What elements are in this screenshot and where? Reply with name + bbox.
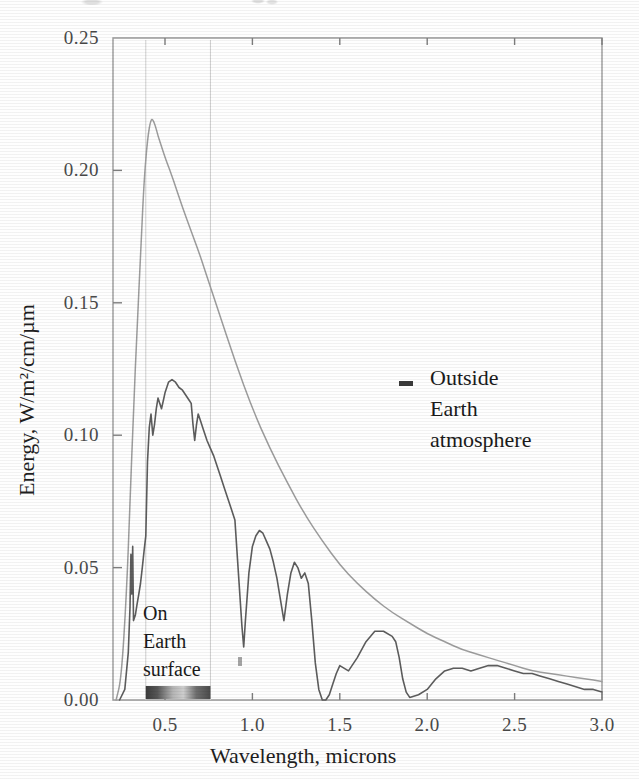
y-axis-tick-labels: 0.000.050.100.150.200.25 (64, 27, 99, 710)
annot-outside-line-3: atmosphere (430, 427, 531, 452)
visible-spectrum-bar (146, 686, 211, 699)
curve-outside-earth-atmosphere (116, 120, 602, 700)
y-tick-label: 0.05 (64, 557, 99, 578)
x-axis-tick-labels: 0.51.01.52.02.53.0 (152, 714, 614, 735)
y-tick-label: 0.00 (64, 689, 99, 710)
plot-frame (113, 38, 602, 700)
annotation-on-earth-surface: On Earth surface (143, 602, 201, 680)
solar-spectrum-chart: 0.51.01.52.02.53.0 0.000.050.100.150.200… (0, 0, 639, 779)
visible-band-gridlines (146, 40, 211, 700)
y-axis-title: Energy, W/m²/cm/µm (14, 304, 39, 496)
x-tick-label: 1.0 (240, 714, 265, 735)
annot-outside-line-2: Earth (430, 396, 478, 421)
x-tick-label: 3.0 (589, 714, 614, 735)
x-tick-label: 2.0 (415, 714, 440, 735)
y-tick-label: 0.25 (64, 27, 99, 48)
x-axis-title: Wavelength, microns (210, 743, 396, 768)
y-tick-label: 0.15 (64, 292, 99, 313)
x-tick-label: 0.5 (152, 714, 177, 735)
annot-surface-line-1: On (143, 602, 167, 624)
outside-annotation-pointer (399, 381, 413, 386)
x-tick-label: 2.5 (502, 714, 527, 735)
x-axis-ticks (165, 38, 602, 700)
chart-svg: 0.51.01.52.02.53.0 0.000.050.100.150.200… (0, 0, 639, 779)
y-axis-ticks (113, 170, 122, 567)
cropped-caption-artifact (0, 0, 639, 16)
annot-surface-line-2: Earth (143, 630, 186, 652)
scan-artifact-mark (238, 657, 242, 666)
x-tick-label: 1.5 (327, 714, 352, 735)
y-tick-label: 0.10 (64, 424, 99, 445)
y-tick-label: 0.20 (64, 159, 99, 180)
annot-surface-line-3: surface (143, 658, 201, 680)
annotation-outside-earth-atmosphere: Outside Earth atmosphere (430, 365, 531, 452)
annot-outside-line-1: Outside (430, 365, 498, 390)
